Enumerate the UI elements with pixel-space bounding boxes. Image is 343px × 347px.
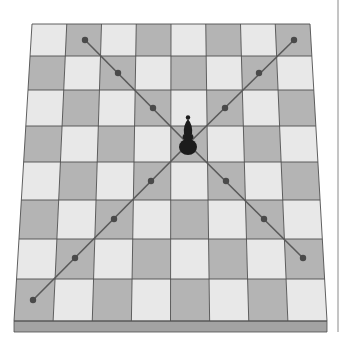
board-square (62, 90, 99, 126)
board-square (280, 126, 318, 162)
bishop-base (179, 139, 197, 155)
board-edge (14, 321, 327, 332)
board-square (171, 24, 206, 56)
move-dot (300, 255, 306, 261)
move-dot (150, 105, 156, 111)
board-square (97, 126, 134, 162)
board-square (248, 279, 288, 321)
board-square (135, 56, 171, 90)
board-square (131, 279, 170, 321)
board-square (136, 24, 171, 56)
board-square (171, 162, 208, 200)
bishop-collar (183, 133, 194, 141)
board-square (243, 126, 281, 162)
board-square (24, 126, 62, 162)
board-square (133, 200, 171, 239)
chessboard-diagram (0, 0, 343, 347)
board-square (208, 200, 246, 239)
chessboard-figure: Chessboard in perspective with a dark bi… (0, 0, 343, 347)
board-square (277, 56, 314, 90)
board-square (171, 279, 210, 321)
board-square (283, 200, 323, 239)
board-square (281, 162, 320, 200)
board-square (96, 162, 134, 200)
move-dot (115, 70, 121, 76)
board-square (242, 90, 279, 126)
board-square (59, 162, 98, 200)
board-square (21, 162, 60, 200)
board-square (209, 239, 248, 279)
move-dot (223, 178, 229, 184)
board-square (171, 239, 210, 279)
board-square (28, 56, 65, 90)
board-square (206, 56, 242, 90)
move-dot (148, 178, 154, 184)
grid-col-line (171, 24, 172, 321)
board-square (57, 200, 96, 239)
board-front-edge (14, 321, 327, 332)
move-dot (111, 216, 117, 222)
board-square (278, 90, 316, 126)
move-dot (82, 37, 88, 43)
move-dot (30, 297, 36, 303)
board-square (92, 279, 132, 321)
board-square (246, 239, 286, 279)
board-square (209, 279, 249, 321)
board-square (101, 24, 137, 56)
bishop-finial (186, 115, 190, 119)
move-dot (222, 105, 228, 111)
board-square (53, 279, 93, 321)
move-dot (72, 255, 78, 261)
move-dot (261, 216, 267, 222)
board-square (26, 90, 64, 126)
board-square (30, 24, 67, 56)
board-square (207, 126, 244, 162)
board-square (244, 162, 282, 200)
board-square (98, 90, 135, 126)
board-square (171, 56, 207, 90)
board-square (286, 279, 327, 321)
board-square (17, 239, 57, 279)
board-square (134, 126, 171, 162)
board-square (94, 239, 133, 279)
board-square (60, 126, 98, 162)
move-dot (256, 70, 262, 76)
board-square (206, 24, 242, 56)
board-square (64, 56, 101, 90)
board-square (241, 24, 277, 56)
board-square (19, 200, 59, 239)
move-dot (291, 37, 297, 43)
board-square (171, 200, 209, 239)
board-square (132, 239, 171, 279)
